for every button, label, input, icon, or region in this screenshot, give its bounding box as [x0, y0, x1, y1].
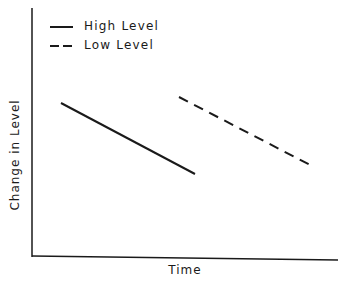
series-low-level-line	[179, 97, 314, 167]
x-axis-label: Time	[168, 263, 201, 277]
y-axis-label: Change in Level	[8, 99, 22, 210]
legend-item-high-level: High Level	[84, 19, 159, 33]
x-axis	[32, 256, 338, 260]
legend-item-low-level: Low Level	[84, 38, 154, 52]
series-high-level-line	[61, 103, 195, 174]
chart-canvas	[0, 0, 349, 289]
